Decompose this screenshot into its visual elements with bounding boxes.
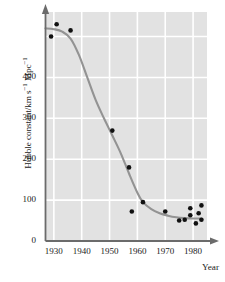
x-tick-label: 1980 bbox=[184, 246, 202, 256]
y-tick-label: 0 bbox=[10, 235, 36, 245]
hubble-constant-chart: 0100200300400 193019401950196019701980 H… bbox=[0, 0, 225, 282]
x-tick-label: 1950 bbox=[101, 246, 119, 256]
x-tick-label: 1940 bbox=[73, 246, 91, 256]
x-tick-label: 1930 bbox=[45, 246, 63, 256]
x-tick-label: 1970 bbox=[156, 246, 174, 256]
plot-panel bbox=[46, 12, 208, 241]
y-tick-label: 100 bbox=[10, 194, 36, 204]
y-axis-title: Hubble constant/km s−1 Mpc−1 bbox=[23, 33, 33, 193]
x-axis-title: Year bbox=[202, 262, 219, 272]
x-tick-label: 1960 bbox=[128, 246, 146, 256]
